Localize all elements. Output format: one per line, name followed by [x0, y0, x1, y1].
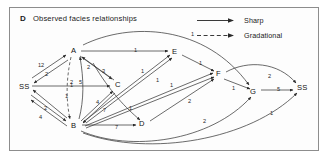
- screenshot-root: D Observed facies relationships Sharp Gr…: [0, 0, 329, 161]
- edge-label-e-to-f: 1: [199, 60, 202, 66]
- edge-label-b-to-g: 2: [203, 118, 206, 124]
- edge-label-b-to-ss_left: 4: [39, 114, 42, 120]
- edge-label-b-to-ss_right: 1: [270, 110, 273, 116]
- edge-label-b-to-e: 1: [141, 68, 144, 74]
- graph-node-g: G: [250, 87, 256, 96]
- edge-label-b-to-e: 1: [156, 77, 159, 83]
- edge-label-a-to-e: 1: [134, 47, 137, 53]
- edge-label-b-to-f: 1: [170, 82, 173, 88]
- edge-label-b-to-ss_left: 1: [65, 93, 68, 99]
- graph-node-c: C: [115, 80, 121, 89]
- edge-label-a-to-d: 1: [129, 105, 132, 111]
- edge-label-b-to-d: 7: [115, 124, 118, 130]
- graph-node-ss_right: SS: [297, 83, 307, 92]
- edge-label-b-to-c: 4: [96, 99, 99, 105]
- edge-label-d-to-f: 2: [188, 98, 191, 104]
- edge-label-a-to-c: 2: [87, 64, 90, 70]
- edge-label-ss_left-to-b: 2: [44, 105, 47, 111]
- graph-node-f: F: [216, 69, 221, 78]
- edge-label-ss_left-to-a: 2: [45, 71, 48, 77]
- edge-label-c-to-b: 7: [103, 107, 106, 113]
- edge-label-c-to-a: 3: [102, 68, 105, 74]
- facies-relationship-graph: [0, 0, 329, 161]
- edge-label-a-to-g: 1: [191, 31, 194, 37]
- edge-label-f-to-g: 1: [232, 85, 235, 91]
- graph-node-d: D: [139, 119, 145, 128]
- graph-node-b: B: [71, 121, 76, 130]
- edge-label-a-to-b: 2: [70, 79, 73, 85]
- graph-node-ss_left: SS: [19, 82, 29, 91]
- graph-node-e: E: [172, 47, 177, 56]
- edge-label-g-to-ss_right: 5: [277, 86, 280, 92]
- edge-label-b-to-a: 5: [79, 79, 82, 85]
- edge-label-a-to-ss_left: 12: [38, 62, 44, 68]
- edge-label-f-to-ss_right: 2: [268, 73, 271, 79]
- graph-node-a: A: [71, 46, 76, 55]
